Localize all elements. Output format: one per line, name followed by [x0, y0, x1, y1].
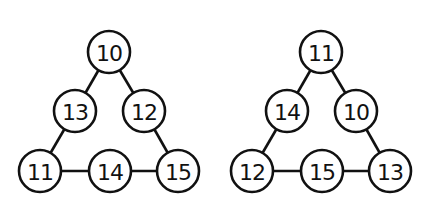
- node-mid-right: 12: [123, 90, 165, 132]
- node-mid-left: 13: [54, 90, 96, 132]
- node-bottom-left: 12: [231, 150, 273, 192]
- node-value: 11: [27, 160, 53, 185]
- node-value: 12: [131, 100, 157, 125]
- node-bottom-right: 13: [369, 150, 411, 192]
- node-bottom-right: 15: [157, 150, 199, 192]
- node-bottom-mid: 14: [89, 150, 131, 192]
- node-value: 10: [343, 100, 369, 125]
- node-top: 11: [300, 31, 342, 73]
- node-value: 12: [239, 160, 265, 185]
- node-mid-right: 10: [335, 90, 377, 132]
- node-mid-left: 14: [266, 90, 308, 132]
- node-value: 14: [97, 160, 123, 185]
- node-value: 13: [377, 160, 403, 185]
- node-top: 10: [88, 31, 130, 73]
- right-triangle: 111410121513: [231, 31, 411, 192]
- diagram-canvas: 101312111415111410121513: [0, 0, 424, 213]
- node-value: 10: [96, 41, 122, 66]
- node-value: 15: [309, 160, 335, 185]
- node-value: 11: [308, 41, 334, 66]
- node-bottom-left: 11: [19, 150, 61, 192]
- left-triangle: 101312111415: [19, 31, 199, 192]
- node-value: 15: [165, 160, 191, 185]
- node-bottom-mid: 15: [301, 150, 343, 192]
- node-value: 14: [274, 100, 300, 125]
- node-value: 13: [62, 100, 88, 125]
